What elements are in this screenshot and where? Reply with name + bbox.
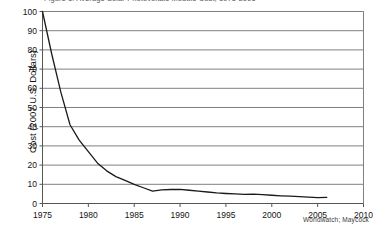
source-attribution: Worldwatch; Maycock xyxy=(303,216,369,224)
svg-text:10: 10 xyxy=(28,179,38,189)
svg-text:70: 70 xyxy=(28,64,38,74)
svg-text:20: 20 xyxy=(28,160,38,170)
svg-text:60: 60 xyxy=(28,83,38,93)
grid-lines xyxy=(43,12,364,185)
y-axis-ticks: 0102030405060708090100 xyxy=(23,7,43,209)
svg-text:0: 0 xyxy=(32,199,37,209)
svg-text:1980: 1980 xyxy=(79,210,98,220)
svg-text:40: 40 xyxy=(28,122,38,132)
svg-text:2000: 2000 xyxy=(262,210,281,220)
svg-text:1985: 1985 xyxy=(125,210,144,220)
svg-text:90: 90 xyxy=(28,26,38,36)
svg-text:1990: 1990 xyxy=(171,210,190,220)
svg-text:100: 100 xyxy=(23,7,37,17)
svg-text:1975: 1975 xyxy=(33,210,52,220)
svg-text:80: 80 xyxy=(28,45,38,55)
series-line-cost xyxy=(43,12,327,198)
chart-figure: Figure 1. Average Solar Photovoltaic Mod… xyxy=(0,0,375,232)
svg-text:30: 30 xyxy=(28,141,38,151)
svg-text:1995: 1995 xyxy=(216,210,235,220)
chart-plot-area: 0102030405060708090100 19751980198519901… xyxy=(0,0,375,232)
svg-text:50: 50 xyxy=(28,103,38,113)
